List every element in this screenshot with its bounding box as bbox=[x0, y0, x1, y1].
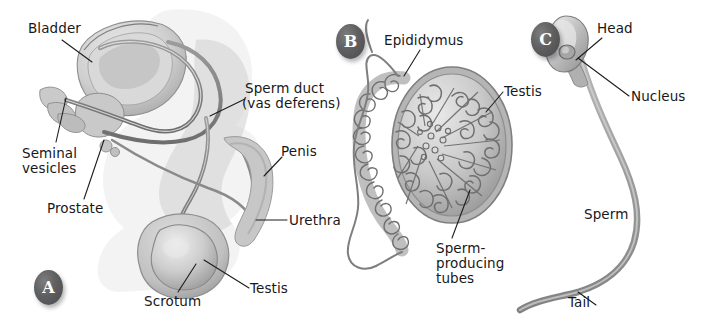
label-head: Head bbox=[597, 21, 633, 37]
panel-badge-c: C bbox=[531, 22, 560, 57]
label-epididymus: Epididymus bbox=[384, 33, 463, 49]
label-vas-deferens: (vas deferens) bbox=[242, 96, 341, 112]
panel-badge-b: B bbox=[336, 24, 365, 59]
label-testis-a: Testis bbox=[250, 281, 288, 297]
label-nucleus: Nucleus bbox=[631, 89, 685, 105]
label-penis: Penis bbox=[281, 144, 317, 160]
label-sperm-tubes-3: tubes bbox=[436, 271, 474, 287]
label-bladder: Bladder bbox=[28, 21, 81, 37]
label-tail: Tail bbox=[568, 295, 590, 311]
label-vesicles: vesicles bbox=[22, 161, 76, 177]
label-prostate: Prostate bbox=[47, 201, 103, 217]
label-scrotum: Scrotum bbox=[144, 294, 201, 310]
panel-badge-a: A bbox=[34, 270, 63, 305]
anatomy-figure: Bladder Sperm duct (vas deferens) Semina… bbox=[0, 0, 710, 327]
label-sperm: Sperm bbox=[584, 207, 628, 223]
